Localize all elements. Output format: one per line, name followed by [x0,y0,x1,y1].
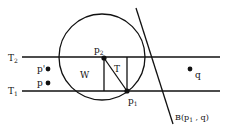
point-p [46,81,51,86]
segment-p2-p1 [104,58,127,91]
diagram-canvas: T2 T1 p' p q p2 p1 W T B(p1 , q) [0,0,225,131]
label-p-prime: p' [37,64,45,74]
label-p2: p2 [94,45,104,56]
label-p1: p1 [128,96,138,107]
label-p: p [37,78,43,88]
point-p1 [124,88,129,93]
label-region-w: W [80,70,90,80]
label-bisector: B(p1 , q) [175,113,209,123]
label-region-t: T [114,64,120,74]
label-q: q [195,70,201,80]
point-p2 [101,55,106,60]
bisector-line [136,8,173,124]
point-p-prime [46,67,51,72]
label-t2: T2 [8,53,18,64]
label-t1: T1 [8,86,18,97]
point-q [188,67,193,72]
